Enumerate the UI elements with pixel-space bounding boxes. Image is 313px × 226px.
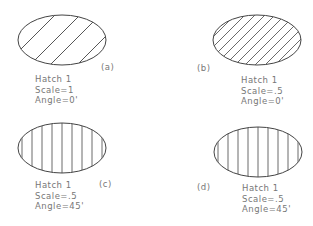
scale-text: Scale=1 [35,85,78,96]
angle-text: Angle=45' [35,201,84,212]
figure-tag-c: (c) [99,179,112,189]
scale-text: Scale=.5 [35,191,84,202]
figure-label-a: Hatch 1 Scale=1 Angle=0' [35,74,78,106]
figure-tag-b: (b) [197,63,211,73]
pattern-text: Hatch 1 [242,183,291,194]
figure-label-b: Hatch 1 Scale=.5 Angle=0' [241,75,284,107]
ellipse-d [214,124,302,182]
pattern-text: Hatch 1 [35,74,78,85]
angle-text: Angle=0' [35,95,78,106]
pattern-text: Hatch 1 [241,75,284,86]
scale-text: Scale=.5 [242,194,291,205]
ellipse-c [18,120,106,178]
angle-text: Angle=0' [241,96,284,107]
pattern-text: Hatch 1 [35,180,84,191]
ellipse-a [0,10,132,70]
figure-tag-a: (a) [101,62,114,72]
scale-text: Scale=.5 [241,86,284,97]
figure-label-d: Hatch 1 Scale=.5 Angle=45' [242,183,291,215]
figure-label-c: Hatch 1 Scale=.5 Angle=45' [35,180,84,212]
angle-text: Angle=45' [242,204,291,215]
figure-tag-d: (d) [197,182,211,192]
ellipse-b [180,10,313,70]
